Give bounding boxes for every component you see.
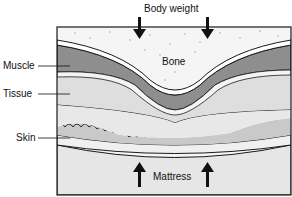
pressure-diagram xyxy=(0,0,292,197)
body-weight-label: Body weight xyxy=(144,3,198,14)
tissue-label: Tissue xyxy=(3,88,32,99)
mattress-label: Mattress xyxy=(153,171,191,182)
bone-label: Bone xyxy=(162,56,185,67)
muscle-label: Muscle xyxy=(3,60,35,71)
skin-label: Skin xyxy=(16,132,35,143)
